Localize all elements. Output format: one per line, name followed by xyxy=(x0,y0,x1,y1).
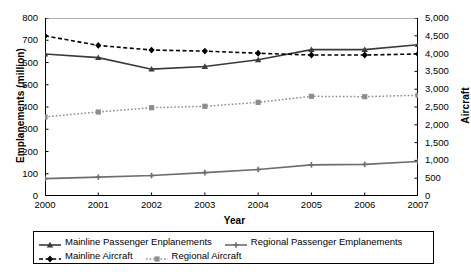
x-axis-tick-label: 2000 xyxy=(22,199,68,210)
legend-item-label: Mainline Aircraft xyxy=(65,250,133,261)
y-axis-left-tick-label: 100 xyxy=(4,168,38,179)
x-axis-tick-label: 2006 xyxy=(342,199,388,210)
series-line-0 xyxy=(45,45,418,69)
x-axis-title: Year xyxy=(0,215,469,226)
y-axis-right-tick-label: 4,000 xyxy=(425,48,465,59)
data-point-square xyxy=(362,94,367,99)
y-axis-left-tick-label: 800 xyxy=(4,12,38,23)
data-point-square xyxy=(256,100,261,105)
y-axis-right-tick-label: 1,000 xyxy=(425,154,465,165)
y-axis-right-tick-label: 1,500 xyxy=(425,137,465,148)
data-point-square xyxy=(96,109,101,114)
legend-marker-square-icon xyxy=(146,250,168,260)
data-point-diamond xyxy=(148,47,154,54)
legend-marker-plus-icon xyxy=(225,236,247,246)
y-axis-right-tick-label: 2,500 xyxy=(425,101,465,112)
data-point-square xyxy=(309,94,314,99)
data-point-plus xyxy=(415,159,418,165)
legend-item-label: Regional Aircraft xyxy=(172,250,242,261)
data-point-plus xyxy=(95,174,101,180)
data-point-diamond xyxy=(255,50,261,57)
data-point-plus xyxy=(202,170,208,176)
data-point-square xyxy=(149,105,154,110)
legend-item-regional-aircraft[interactable]: Regional Aircraft xyxy=(146,250,242,261)
data-point-diamond xyxy=(47,256,53,263)
data-point-square xyxy=(202,104,207,109)
chart-legend: Mainline Passenger Enplanements Regional… xyxy=(33,231,434,264)
y-axis-left-tick-label: 500 xyxy=(4,79,38,90)
x-axis-tick-label: 2003 xyxy=(182,199,228,210)
data-point-diamond xyxy=(95,42,101,49)
legend-item-label: Regional Passenger Emplanements xyxy=(251,236,403,247)
data-point-plus xyxy=(149,173,155,179)
data-point-plus xyxy=(45,176,48,182)
data-point-diamond xyxy=(308,52,314,59)
data-point-diamond xyxy=(202,48,208,55)
y-axis-right-tick-label: 500 xyxy=(425,172,465,183)
y-axis-left-tick-label: 600 xyxy=(4,57,38,68)
data-point-square xyxy=(45,114,48,119)
x-axis-tick-label: 2007 xyxy=(395,199,441,210)
x-axis-tick-label: 2002 xyxy=(129,199,175,210)
legend-marker-diamond-icon xyxy=(39,250,61,260)
legend-row-1: Mainline Passenger Enplanements Regional… xyxy=(39,234,433,248)
data-point-plus xyxy=(255,167,261,173)
y-axis-left-tick-label: 700 xyxy=(4,34,38,45)
y-axis-left-tick-label: 300 xyxy=(4,123,38,134)
data-point-plus xyxy=(309,162,315,168)
legend-marker-triangle-icon xyxy=(39,236,61,246)
y-axis-right-tick-label: 5,000 xyxy=(425,12,465,23)
y-axis-right-tick-label: 4,500 xyxy=(425,30,465,41)
legend-row-2: Mainline Aircraft Regional Aircraft xyxy=(39,248,433,262)
data-point-square xyxy=(415,93,418,98)
x-axis-tick-label: 2001 xyxy=(75,199,121,210)
data-point-plus xyxy=(233,242,239,248)
data-point-diamond xyxy=(45,32,48,39)
legend-item-mainline-aircraft[interactable]: Mainline Aircraft xyxy=(39,250,133,261)
legend-item-regional-passenger-emplanements[interactable]: Regional Passenger Emplanements xyxy=(225,236,403,247)
series-line-3 xyxy=(45,95,418,117)
x-axis-tick-label: 2004 xyxy=(235,199,281,210)
plot-area xyxy=(45,18,418,196)
legend-item-label: Mainline Passenger Enplanements xyxy=(65,236,212,247)
x-axis-tick-label: 2005 xyxy=(288,199,334,210)
y-axis-left-tick-label: 400 xyxy=(4,101,38,112)
y-axis-right-tick-label: 3,500 xyxy=(425,65,465,76)
legend-item-mainline-passenger-enplanements[interactable]: Mainline Passenger Enplanements xyxy=(39,236,212,247)
y-axis-left-tick-label: 200 xyxy=(4,146,38,157)
data-point-diamond xyxy=(415,51,418,58)
data-point-plus xyxy=(362,162,368,168)
data-point-diamond xyxy=(362,52,368,59)
data-point-square xyxy=(154,256,159,261)
y-axis-right-tick-label: 3,000 xyxy=(425,83,465,94)
y-axis-right-tick-label: 2,000 xyxy=(425,119,465,130)
